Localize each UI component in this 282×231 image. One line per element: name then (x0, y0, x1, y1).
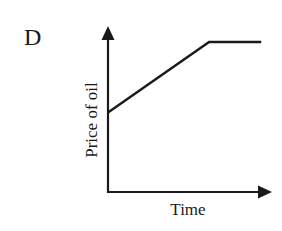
chart-plot (0, 0, 282, 231)
y-axis-arrow-icon (102, 26, 115, 40)
y-axis-label: Price of oil (82, 82, 102, 158)
x-axis-arrow-icon (258, 186, 272, 199)
x-axis-label: Time (170, 200, 205, 220)
price-line (108, 42, 261, 113)
